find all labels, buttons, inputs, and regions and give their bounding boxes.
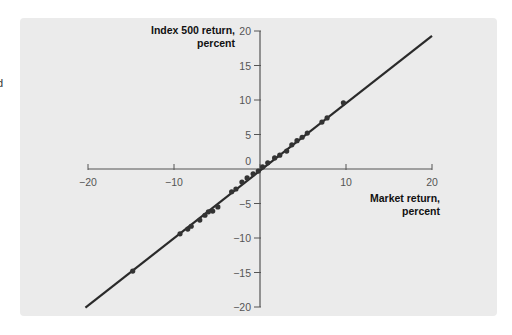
data-point xyxy=(260,164,265,169)
data-point xyxy=(277,153,282,158)
data-point xyxy=(294,138,299,143)
data-point xyxy=(305,131,310,136)
x-tick-label: 10 xyxy=(340,176,352,188)
data-point xyxy=(256,168,261,173)
data-point xyxy=(251,171,256,176)
data-point xyxy=(272,155,277,160)
data-point xyxy=(239,180,244,185)
scatter-chart: −20−10102020151050−5−10−15−20 Index 500 … xyxy=(0,0,512,335)
data-point xyxy=(324,115,329,120)
data-point xyxy=(197,217,202,222)
axis-labels: Index 500 return,percentMarket return,pe… xyxy=(151,24,441,217)
y-axis-title: Index 500 return, xyxy=(151,24,235,36)
y-tick-label: 20 xyxy=(239,25,251,37)
x-axis-title: percent xyxy=(402,205,440,217)
data-point xyxy=(215,204,220,209)
y-tick-label: 5 xyxy=(245,129,251,141)
data-point xyxy=(265,160,270,165)
y-tick-label: 15 xyxy=(239,60,251,72)
data-point xyxy=(189,224,194,229)
data-point xyxy=(289,142,294,147)
y-tick-label: −15 xyxy=(233,267,251,279)
y-tick-label: 0 xyxy=(245,155,251,167)
data-point xyxy=(177,231,182,236)
data-point xyxy=(245,175,250,180)
y-tick-label: 10 xyxy=(239,94,251,106)
data-point xyxy=(130,269,135,274)
data-point xyxy=(284,148,289,153)
x-axis-title: Market return, xyxy=(370,192,440,204)
data-point xyxy=(319,119,324,124)
x-tick-label: −10 xyxy=(165,176,183,188)
y-tick-label: −20 xyxy=(233,301,251,313)
data-point xyxy=(341,100,346,105)
data-point xyxy=(229,189,234,194)
data-point xyxy=(233,186,238,191)
x-tick-label: −20 xyxy=(79,176,97,188)
y-axis-title: percent xyxy=(197,37,235,49)
y-tick-label: −10 xyxy=(233,232,251,244)
data-point xyxy=(300,135,305,140)
x-tick-label: 20 xyxy=(426,176,438,188)
data-point xyxy=(210,208,215,213)
y-tick-label: −5 xyxy=(239,198,251,210)
